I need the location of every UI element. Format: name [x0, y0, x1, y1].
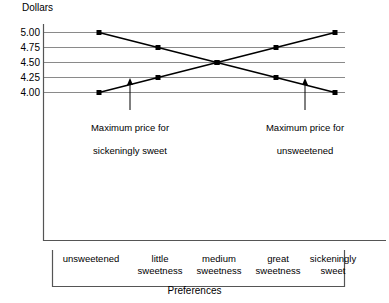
x-axis-category-label: unsweetened — [53, 253, 129, 265]
category-line-1: medium — [188, 253, 250, 265]
category-line-2: sweetness — [129, 265, 191, 277]
category-line-2: sweet — [300, 265, 366, 277]
x-axis-category-label: medium sweetness — [188, 253, 250, 276]
category-line-1: unsweetened — [53, 253, 129, 265]
annotation-line-2: unsweetened — [237, 145, 373, 157]
annotation-line-2: sickeningly sweet — [62, 145, 198, 157]
annotation-unsweetened: Maximum price for unsweetened — [237, 110, 373, 168]
annotation-line-1: Maximum price for — [62, 122, 198, 134]
annotation-line-1: Maximum price for — [237, 122, 373, 134]
annotation-sickeningly-sweet: Maximum price for sickeningly sweet — [62, 110, 198, 168]
annotation-arrow-unsweetened — [302, 78, 308, 110]
x-axis-category-label: sickeningly sweet — [300, 253, 366, 276]
x-axis-category-label: little sweetness — [129, 253, 191, 276]
category-line-2: sweetness — [188, 265, 250, 277]
category-line-1: sickeningly — [300, 253, 366, 265]
x-axis-title: Preferences — [0, 285, 389, 296]
category-line-1: little — [129, 253, 191, 265]
chart-figure: Dollars 5.00 4.75 4.50 4.25 4.00 — [0, 0, 389, 303]
annotation-arrow-sickeningly-sweet — [127, 78, 133, 110]
